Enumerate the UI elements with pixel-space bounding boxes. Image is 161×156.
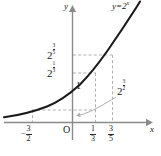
- x-tick-label-3-5: 3 5: [108, 125, 114, 144]
- callout-exponent: 3 2: [123, 79, 126, 92]
- curve-equation-label: y=2x: [112, 2, 129, 11]
- exponential-function-diagram: y x y=2x 2 3 5 2 1 3 1 2 3 2 O − 3: [0, 0, 161, 156]
- y-axis-label: y: [64, 2, 68, 11]
- y-tick-label-2-pow-1-3: 2 1 3: [47, 64, 55, 80]
- y-tick-exponent-0: 3 5: [53, 43, 56, 56]
- callout-arrow-head: [76, 113, 81, 118]
- unit-label-one: 1: [76, 81, 81, 91]
- y-axis: [69, 5, 76, 140]
- curve-equation-exponent: x: [127, 0, 130, 6]
- y-tick-exponent-1: 1 3: [53, 61, 56, 74]
- curve-equation-text: y=2: [112, 1, 127, 11]
- x-tick-fraction-1: 3 5: [108, 125, 114, 144]
- x-tick-label-1-3: 1 3: [90, 125, 96, 144]
- x-tick-neg-fraction: 3 2: [26, 125, 32, 144]
- x-axis-label: x: [150, 125, 154, 134]
- x-tick-label-neg-3-2: − 3 2: [21, 125, 32, 144]
- callout-leader-line: [80, 97, 116, 115]
- x-tick-fraction-0: 1 3: [90, 125, 96, 144]
- origin-label: O: [63, 125, 70, 135]
- callout-label-2-pow-3-2: 2 3 2: [117, 82, 125, 98]
